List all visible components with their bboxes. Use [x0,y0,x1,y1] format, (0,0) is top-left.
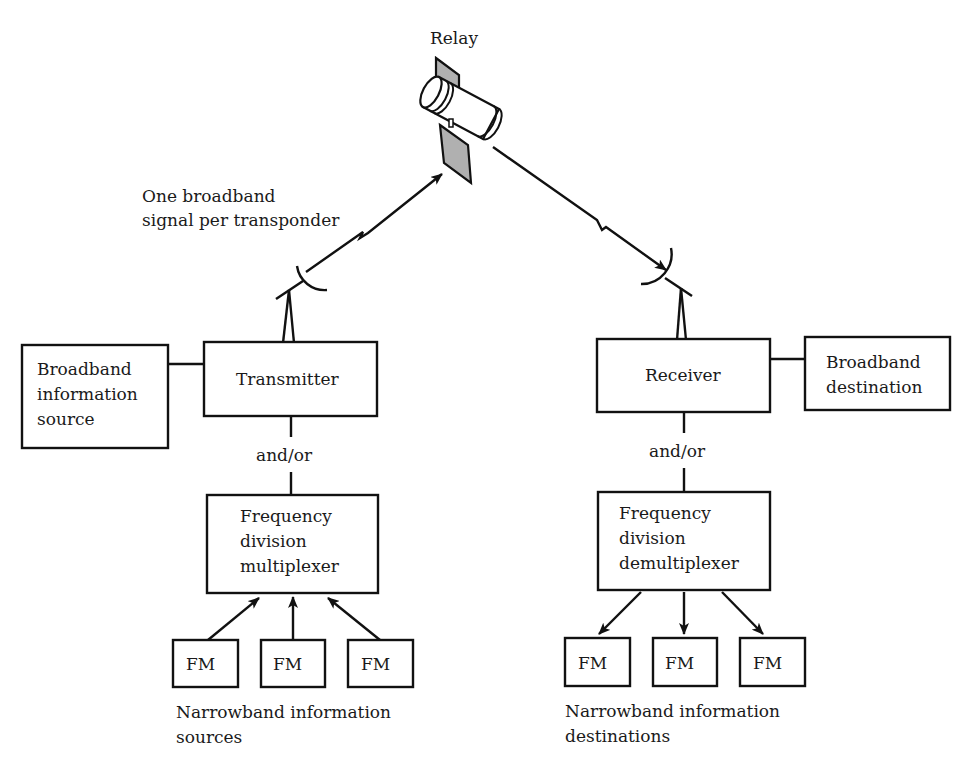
svg-text:destination: destination [826,377,923,397]
fm-source-box-1: FM [173,640,238,687]
svg-text:FM: FM [361,654,390,674]
fm-source-arrow-1 [208,598,259,640]
fm-destination-box-1: FM [565,638,630,686]
svg-text:Transmitter: Transmitter [236,369,340,389]
narrowband-sources-caption-line2: sources [176,727,242,747]
fm-destination-box-2: FM [653,638,717,686]
svg-text:Broadband: Broadband [826,352,921,372]
fm-destination-arrow-1 [599,592,641,634]
and-or-label-receive: and/or [649,441,706,461]
downlink-signal-arrow [493,147,666,270]
satellite-relay-icon [416,58,506,183]
svg-text:FM: FM [273,654,302,674]
svg-text:division: division [240,531,307,551]
and-or-label-transmit: and/or [256,445,313,465]
fm-source-arrow-3 [328,598,380,640]
broadband-information-source-box: Broadband information source [22,345,168,448]
broadband-destination-box: Broadband destination [805,337,950,410]
svg-text:Frequency: Frequency [619,503,711,523]
svg-text:Broadband: Broadband [37,359,132,379]
svg-text:multiplexer: multiplexer [240,556,340,576]
svg-text:Receiver: Receiver [645,365,722,385]
svg-text:Frequency: Frequency [240,506,332,526]
fm-source-box-2: FM [261,640,325,687]
narrowband-destinations-caption-line1: Narrowband information [565,701,780,721]
frequency-division-multiplexer-box: Frequency division multiplexer [207,495,378,593]
svg-text:information: information [37,384,138,404]
narrowband-destinations-caption-line2: destinations [565,726,670,746]
fm-destination-arrow-3 [722,592,763,634]
svg-text:FM: FM [578,653,607,673]
transmit-dish-icon [276,266,327,343]
svg-text:demultiplexer: demultiplexer [619,553,740,573]
svg-text:source: source [37,409,95,429]
receive-dish-icon [641,248,692,340]
transmitter-box: Transmitter [204,342,377,416]
fm-source-box-3: FM [348,640,413,687]
relay-label: Relay [430,28,478,48]
svg-text:FM: FM [665,653,694,673]
uplink-label-line2: signal per transponder [142,210,340,230]
solar-panel-bottom-icon [440,125,471,183]
svg-text:FM: FM [186,654,215,674]
svg-text:FM: FM [753,653,782,673]
receiver-box: Receiver [597,339,770,412]
uplink-label-line1: One broadband [142,186,276,206]
frequency-division-demultiplexer-box: Frequency division demultiplexer [598,492,770,590]
fm-destination-box-3: FM [740,638,805,686]
svg-text:division: division [619,528,686,548]
narrowband-sources-caption-line1: Narrowband information [176,702,391,722]
satellite-fdm-diagram: Relay One broadband signal per transpond… [0,0,971,757]
